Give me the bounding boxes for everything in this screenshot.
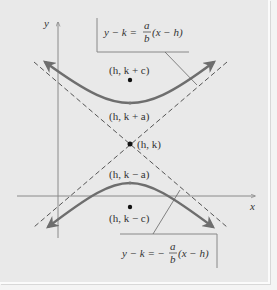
upper-equation-leader: [165, 52, 197, 85]
upper-vertex-label: (h, k + a): [109, 110, 150, 123]
upper-focus-dot: [128, 78, 132, 82]
lower-vertex-label: (h, k − a): [109, 168, 150, 181]
upper-equation: y − k = a b (x − h): [103, 19, 183, 44]
hyperbola-diagram: y x (h, k + c) (h, k + a) (h, k) (h, k −…: [0, 0, 277, 290]
center-dot: [128, 142, 133, 147]
svg-text:y − k = −: y − k = −: [121, 247, 165, 259]
x-axis-label: x: [249, 200, 255, 212]
upper-focus-label: (h, k + c): [109, 64, 150, 77]
svg-text:(x − h): (x − h): [152, 26, 183, 39]
svg-text:b: b: [170, 253, 176, 265]
svg-text:a: a: [144, 19, 150, 31]
svg-text:a: a: [170, 240, 176, 252]
upper-vertex-dot: [129, 102, 132, 105]
lower-equation: y − k = − a b (x − h): [121, 240, 209, 265]
svg-text:(x − h): (x − h): [178, 247, 209, 260]
lower-vertex-dot: [129, 182, 132, 185]
lower-focus-label: (h, k − c): [109, 212, 150, 225]
y-axis-label: y: [43, 17, 49, 29]
svg-text:y − k =: y − k =: [103, 26, 137, 38]
lower-focus-dot: [128, 205, 132, 209]
svg-text:b: b: [144, 32, 150, 44]
center-label: (h, k): [137, 138, 161, 151]
lower-equation-leader: [153, 190, 180, 234]
